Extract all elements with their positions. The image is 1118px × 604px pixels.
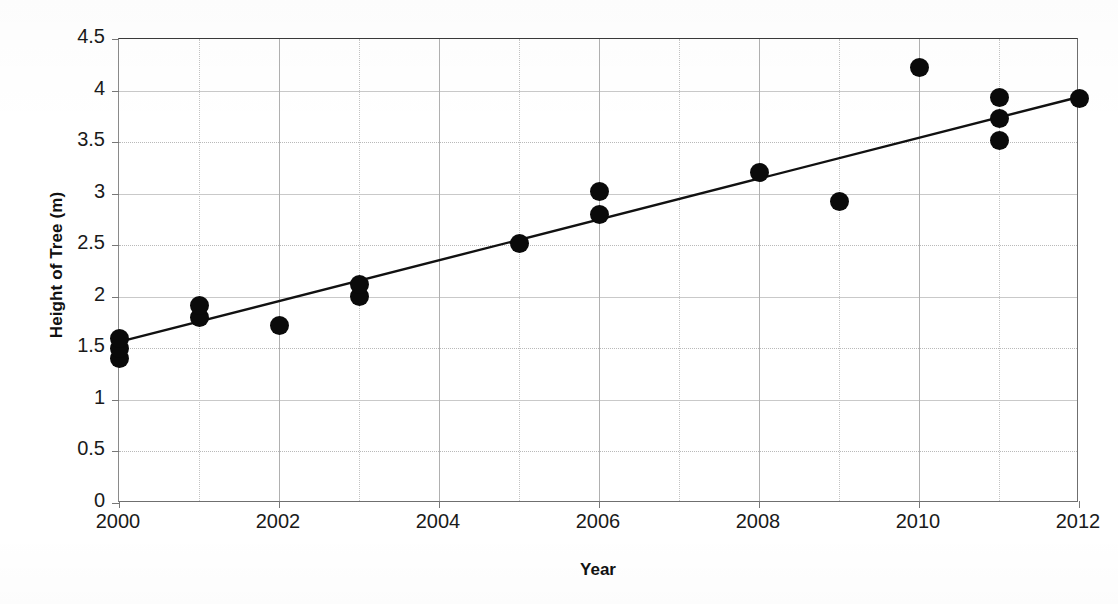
chart-title-clipped [250, 0, 870, 3]
x-axis-tick-label-text: 2002 [256, 510, 301, 533]
gridline-vertical [919, 39, 920, 501]
y-axis-tick-label-text: 3 [94, 180, 105, 203]
y-axis-tick-label-text: 3.5 [77, 128, 105, 151]
x-axis-tick-label-text: 2010 [896, 510, 941, 533]
x-axis-label: Year [118, 560, 1078, 580]
data-point [990, 109, 1009, 128]
x-axis-tick-label-text: 2000 [96, 510, 141, 533]
gridline-horizontal [119, 297, 1077, 298]
data-point [270, 316, 289, 335]
y-axis-tick-label-text: 2.5 [77, 231, 105, 254]
x-tick-mark [279, 501, 280, 508]
x-tick-mark [119, 501, 120, 508]
data-point [990, 88, 1009, 107]
y-tick-mark [112, 503, 119, 504]
x-tick-mark [439, 501, 440, 508]
x-axis-tick-label-text: 2008 [736, 510, 781, 533]
gridline-vertical [279, 39, 280, 501]
y-axis-tick-label-text: 1.5 [77, 334, 105, 357]
y-axis-tick-label-text: 4 [94, 77, 105, 100]
x-axis-tick-label-text: 2012 [1056, 510, 1101, 533]
data-point [1070, 89, 1089, 108]
y-axis-tick-label-text: 0.5 [77, 437, 105, 460]
trendline [119, 39, 1077, 501]
data-point [990, 131, 1009, 150]
x-tick-mark [919, 501, 920, 508]
x-tick-mark [759, 501, 760, 508]
gridline-vertical [199, 39, 200, 501]
y-axis-tick-label-text: 1 [94, 386, 105, 409]
gridline-vertical [359, 39, 360, 501]
x-tick-mark [599, 501, 600, 508]
gridline-vertical [599, 39, 600, 501]
chart-figure: Height of Tree (m) Year 00.511.522.533.5… [0, 0, 1118, 604]
data-point [910, 58, 929, 77]
data-point [350, 275, 369, 294]
gridline-horizontal [119, 245, 1077, 246]
gridline-vertical [679, 39, 680, 501]
data-point [190, 296, 209, 315]
y-tick-mark [112, 297, 119, 298]
gridline-horizontal [119, 142, 1077, 143]
y-axis-tick-label-text: 4.5 [77, 25, 105, 48]
data-point [510, 234, 529, 253]
data-point [590, 205, 609, 224]
x-axis-tick-label-text: 2004 [416, 510, 461, 533]
y-tick-mark [112, 194, 119, 195]
y-tick-mark [112, 91, 119, 92]
x-axis-tick-label-text: 2006 [576, 510, 621, 533]
y-tick-mark [112, 245, 119, 246]
gridline-vertical [839, 39, 840, 501]
gridline-vertical [759, 39, 760, 501]
data-point [750, 163, 769, 182]
y-tick-mark [112, 39, 119, 40]
gridline-vertical [439, 39, 440, 501]
y-axis-label: Height of Tree (m) [47, 135, 67, 395]
data-point [590, 182, 609, 201]
data-point [110, 329, 129, 348]
gridline-vertical [519, 39, 520, 501]
y-axis-tick-label-text: 2 [94, 283, 105, 306]
gridline-horizontal [119, 91, 1077, 92]
gridline-horizontal [119, 348, 1077, 349]
data-point [830, 192, 849, 211]
y-axis-tick-label-text: 0 [94, 489, 105, 512]
x-tick-mark [1079, 501, 1080, 508]
y-tick-mark [112, 400, 119, 401]
y-tick-mark [112, 142, 119, 143]
gridline-horizontal [119, 451, 1077, 452]
gridline-horizontal [119, 400, 1077, 401]
plot-area [118, 38, 1078, 502]
y-tick-mark [112, 451, 119, 452]
